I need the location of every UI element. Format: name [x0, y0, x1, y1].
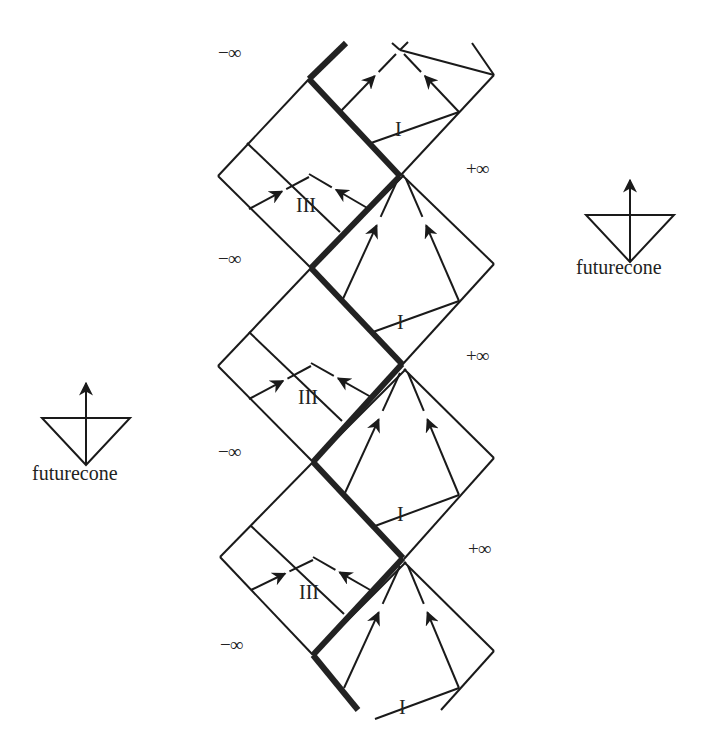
- minus-infinity-label: −∞: [220, 634, 242, 656]
- region-iii-label: III: [298, 386, 318, 409]
- flow-arrows: [249, 54, 459, 688]
- region-i-label: I: [395, 118, 402, 141]
- minus-infinity-label: −∞: [218, 42, 240, 64]
- futurecone-label: futurecone: [576, 256, 662, 279]
- plus-infinity-label: +∞: [468, 538, 490, 560]
- minus-infinity-label: −∞: [218, 248, 240, 270]
- region-i-label: I: [397, 311, 404, 334]
- region-i-label: I: [397, 503, 404, 526]
- plus-infinity-label: +∞: [466, 345, 488, 367]
- thin-lines: [218, 42, 494, 719]
- futurecone-label: futurecone: [32, 462, 118, 485]
- minus-infinity-label: −∞: [218, 441, 240, 463]
- region-iii-label: III: [296, 194, 316, 217]
- region-iii-label: III: [299, 581, 319, 604]
- region-i-label: I: [399, 696, 406, 719]
- plus-infinity-label: +∞: [466, 158, 488, 180]
- penrose-diagram: [0, 0, 724, 744]
- horizon-thick-line: [309, 43, 403, 710]
